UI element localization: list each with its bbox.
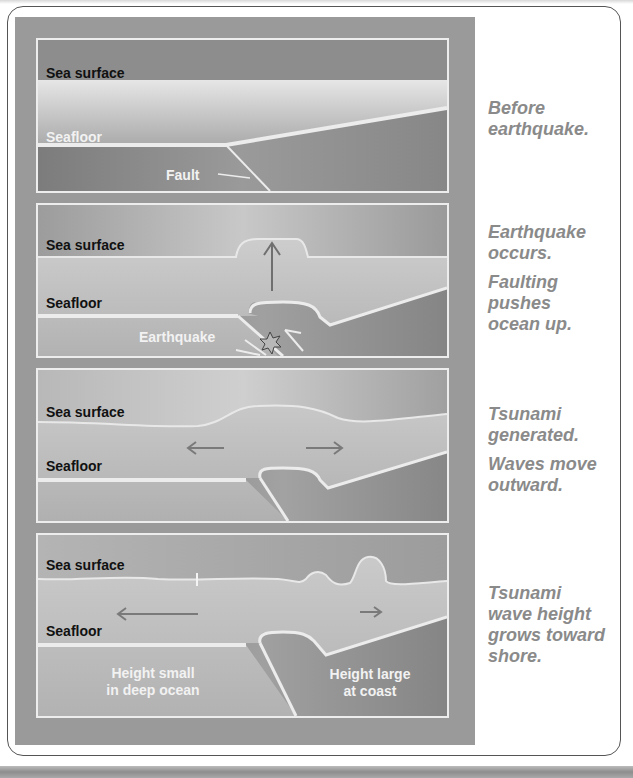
caption-text: Waves move outward. xyxy=(488,454,618,496)
caption-text: Earthquake occurs. xyxy=(488,222,628,264)
label-line: in deep ocean xyxy=(98,682,208,699)
panel-wave-height-grows: Sea surface Seafloor Height small in dee… xyxy=(36,533,449,718)
panel-tsunami-generated: Sea surface Seafloor xyxy=(36,368,449,523)
label-earthquake: Earthquake xyxy=(139,329,215,345)
caption-earthquake: Earthquake occurs. Faulting pushes ocean… xyxy=(488,222,628,335)
top-edge xyxy=(0,0,633,4)
bottom-bar xyxy=(0,766,633,778)
caption-generated: Tsunami generated. Waves move outward. xyxy=(488,404,628,496)
label-line: Height small xyxy=(98,665,208,682)
label-sea-surface: Sea surface xyxy=(46,557,125,573)
label-height-small: Height small in deep ocean xyxy=(98,665,208,699)
label-seafloor: Seafloor xyxy=(46,458,102,474)
cross-section-generated xyxy=(38,370,447,521)
label-seafloor: Seafloor xyxy=(46,129,102,145)
caption-before: Before earthquake. xyxy=(488,98,628,140)
label-line: Height large xyxy=(320,666,420,683)
caption-text: Tsunami wave height grows toward shore. xyxy=(488,583,608,667)
label-seafloor: Seafloor xyxy=(46,623,102,639)
caption-text: Before earthquake. xyxy=(488,98,628,140)
label-fault: Fault xyxy=(166,167,199,183)
label-line: at coast xyxy=(320,683,420,700)
caption-growth: Tsunami wave height grows toward shore. xyxy=(488,583,608,667)
label-height-large: Height large at coast xyxy=(320,666,420,700)
label-sea-surface: Sea surface xyxy=(46,65,125,81)
cross-section-earthquake xyxy=(38,205,447,356)
panel-before-earthquake: Sea surface Seafloor Fault xyxy=(36,38,449,193)
cross-section-before xyxy=(38,40,447,191)
panel-earthquake-occurs: Sea surface Seafloor Earthquake xyxy=(36,203,449,358)
label-sea-surface: Sea surface xyxy=(46,237,125,253)
label-sea-surface: Sea surface xyxy=(46,404,125,420)
caption-text: Tsunami generated. xyxy=(488,404,598,446)
label-seafloor: Seafloor xyxy=(46,295,102,311)
caption-text: Faulting pushes ocean up. xyxy=(488,272,598,335)
